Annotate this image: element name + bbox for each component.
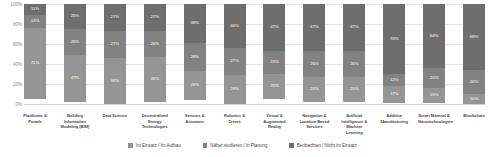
bar-segment[interactable]: 13% (24, 15, 46, 28)
bar-segment-value: 15% (430, 93, 439, 97)
bar-segment-value: 45% (150, 77, 159, 81)
bar-column[interactable]: 47%23%25% (263, 4, 285, 104)
bar-segment[interactable]: 28% (184, 43, 206, 71)
y-axis-tick: 60% (13, 42, 22, 47)
bar-column[interactable]: 25%26%47% (64, 4, 86, 104)
x-axis-label: Artificial Intelligence & Machine Learni… (338, 113, 370, 139)
bar-segment-value: 71% (31, 61, 40, 65)
bar-segment-value: 29% (230, 87, 239, 91)
bar-column[interactable]: 69%26%10% (463, 4, 485, 104)
bar-segment[interactable]: 44% (224, 4, 246, 48)
bar-column[interactable]: 27%27%46% (104, 4, 126, 104)
bar-segment-value: 27% (150, 15, 159, 19)
bar-column[interactable]: 39%28%29% (184, 4, 206, 104)
bar-segment[interactable]: 69% (463, 4, 485, 70)
legend-item[interactable]: Im Einsatz / Im Aufbau (128, 143, 180, 148)
gridline (24, 104, 485, 105)
legend-swatch-icon (289, 143, 294, 148)
bar-segment-value: 44% (230, 24, 239, 28)
x-axis-label: Smart Material & Nanotechnologien (418, 113, 450, 139)
legend-item[interactable]: Beobachten / Nicht im Einsatz (289, 143, 356, 148)
x-axis-label: Data Science (99, 113, 131, 139)
bar-segment[interactable]: 27% (104, 31, 126, 58)
bar-segment[interactable]: 47% (64, 55, 86, 102)
bar-segment-value: 69% (470, 35, 479, 39)
bar-segment[interactable]: 46% (104, 58, 126, 104)
chart-legend: Im Einsatz / Im AufbauNäher studieren / … (0, 143, 485, 148)
bar-segment[interactable]: 26% (303, 51, 325, 77)
bar-segment-value: 11% (31, 7, 39, 11)
y-axis-tick: 100% (10, 2, 22, 7)
bar-segment-value: 27% (230, 59, 239, 63)
bar-segment-value: 25% (310, 87, 319, 91)
bar-segment[interactable]: 25% (343, 77, 365, 102)
bar-segment[interactable]: 47% (343, 4, 365, 51)
bar-segment-value: 47% (350, 25, 359, 29)
bar-column[interactable]: 70%12%17% (383, 4, 405, 104)
x-axis-label: Navigation & Location Based Services (298, 113, 330, 139)
x-axis-label: Decentralized Energy Technologies (139, 113, 171, 139)
bar-segment-value: 17% (390, 92, 399, 96)
bar-segment-value: 46% (111, 79, 120, 83)
bar-segment[interactable]: 27% (224, 48, 246, 75)
bar-segment[interactable]: 25% (263, 74, 285, 99)
bar-segment[interactable]: 39% (184, 4, 206, 43)
bar-segment-value: 25% (71, 14, 80, 18)
x-axis-label: Plattforms & Portals (19, 113, 51, 139)
bar-segment[interactable]: 26% (343, 51, 365, 77)
bar-segment-value: 29% (190, 83, 199, 87)
x-axis-label: Sensors & Actuators (179, 113, 211, 139)
x-axis-label: Robotics & Drives (219, 113, 251, 139)
bar-segment-value: 64% (430, 34, 439, 38)
bar-segment[interactable]: 15% (423, 88, 445, 103)
bar-segment[interactable]: 45% (144, 57, 166, 102)
legend-item[interactable]: Näher studieren / In Planung (203, 143, 268, 148)
bar-segment-value: 27% (111, 15, 120, 19)
bar-column[interactable]: 64%20%15% (423, 4, 445, 104)
bar-segment[interactable]: 20% (423, 68, 445, 88)
bar-segment[interactable]: 27% (104, 4, 126, 31)
bar-segment-value: 26% (150, 42, 159, 46)
bar-segment[interactable]: 64% (423, 4, 445, 68)
bar-segment-value: 26% (350, 62, 359, 66)
bar-segment[interactable]: 10% (463, 94, 485, 104)
bar-segment[interactable]: 29% (224, 75, 246, 104)
bar-segment-value: 25% (350, 87, 359, 91)
x-axis-label: Virtual & Augmented Reality (258, 113, 290, 139)
bar-segment[interactable]: 11% (24, 4, 46, 15)
bar-segment[interactable]: 47% (263, 4, 285, 51)
bar-segment-value: 26% (310, 62, 319, 66)
bar-column[interactable]: 47%26%25% (303, 4, 325, 104)
bar-segment[interactable]: 23% (263, 51, 285, 74)
bar-segment[interactable]: 26% (144, 31, 166, 57)
bar-segment[interactable]: 26% (463, 70, 485, 95)
bar-segment[interactable]: 70% (383, 4, 405, 74)
legend-label: Beobachten / Nicht im Einsatz (297, 143, 357, 148)
bar-group: 11%13%71%25%26%47%27%27%46%27%26%45%39%2… (24, 4, 485, 104)
bar-segment[interactable]: 25% (303, 77, 325, 102)
bar-segment[interactable]: 71% (24, 28, 46, 99)
bar-segment[interactable]: 47% (303, 4, 325, 51)
y-axis-tick: 40% (13, 62, 22, 67)
bar-column[interactable]: 27%26%45% (144, 4, 166, 104)
legend-swatch-icon (128, 143, 133, 148)
bar-segment-value: 10% (470, 97, 479, 101)
bar-segment[interactable]: 27% (144, 4, 166, 31)
bar-column[interactable]: 11%13%71% (24, 4, 46, 104)
x-axis-label: Blockchain (458, 113, 490, 139)
bar-segment[interactable]: 26% (64, 29, 86, 55)
y-axis-tick: 20% (13, 82, 22, 87)
bar-segment[interactable]: 17% (383, 86, 405, 103)
y-axis-tick: 0% (15, 102, 22, 107)
bar-column[interactable]: 47%26%25% (343, 4, 365, 104)
x-axis-label: Building Information Modeling (BIM) (59, 113, 91, 139)
bar-segment-value: 25% (270, 84, 279, 88)
bar-segment[interactable]: 12% (383, 74, 405, 86)
x-axis-labels: Plattforms & PortalsBuilding Information… (24, 113, 485, 139)
bar-segment[interactable]: 25% (64, 4, 86, 29)
bar-segment-value: 13% (31, 19, 40, 23)
bar-segment[interactable]: 29% (184, 71, 206, 100)
bar-segment-value: 23% (270, 60, 279, 64)
y-axis-tick: 80% (13, 22, 22, 27)
bar-column[interactable]: 44%27%29% (224, 4, 246, 104)
